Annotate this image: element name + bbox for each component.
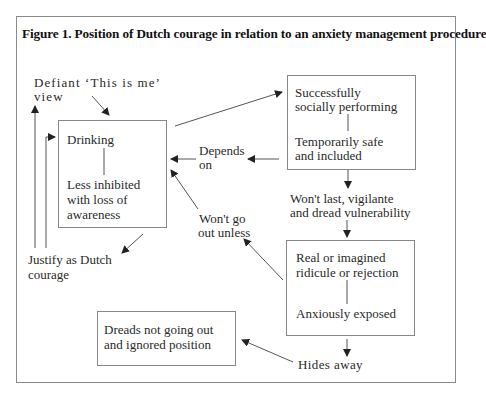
justify-to-drinking-arrow <box>46 137 55 248</box>
ridicule-to-wont-go-out-arrow <box>244 239 283 280</box>
hides-away-to-dreads-arrow <box>242 340 293 362</box>
drinking-to-justify-arrow <box>122 234 143 253</box>
wont-go-out-to-drinking-arrow <box>171 170 198 209</box>
defiant-to-drinking-arrow <box>92 96 109 115</box>
drinking-to-success-arrow <box>175 92 282 126</box>
